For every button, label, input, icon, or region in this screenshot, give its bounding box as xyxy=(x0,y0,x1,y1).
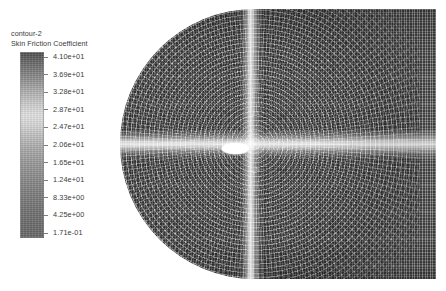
legend-subtitle: Skin Friction Coefficient xyxy=(11,39,88,49)
colorbar-tick-mark xyxy=(44,57,48,58)
colorbar-tick-label: 4.10e+01 xyxy=(53,52,84,62)
plot-area xyxy=(96,0,446,291)
fluent-contour-screenshot: contour-2 Skin Friction Coefficient 4.10… xyxy=(0,0,446,291)
colorbar-tick-mark xyxy=(44,109,48,110)
colorbar-tick-label: 2.47e+01 xyxy=(53,122,84,132)
colorbar-tick-label: 1.71e-01 xyxy=(53,228,83,238)
colorbar-tick-mark xyxy=(44,145,48,146)
colorbar-tick-mark xyxy=(44,92,48,93)
colorbar-tick-mark xyxy=(44,74,48,75)
centerline-band-horizontal-core xyxy=(110,137,436,151)
colorbar-gradient xyxy=(20,52,44,238)
colorbar-tick-label: 1.24e+01 xyxy=(53,175,84,185)
colorbar-tick-label: 1.65e+01 xyxy=(53,158,84,168)
mesh-domain xyxy=(110,9,436,279)
colorbar-tick-label: 4.25e+00 xyxy=(53,210,84,220)
elliptical-body xyxy=(222,143,249,154)
colorbar-tick-mark xyxy=(44,162,48,163)
colorbar-tick-mark xyxy=(44,180,48,181)
colorbar-tick-label: 8.33e+00 xyxy=(53,193,84,203)
colorbar-tick-label: 3.69e+01 xyxy=(53,70,84,80)
legend-title: contour-2 xyxy=(11,29,42,39)
colorbar-tick-mark xyxy=(44,215,48,216)
colorbar-tick-mark xyxy=(44,197,48,198)
colorbar-tick-mark xyxy=(44,233,48,234)
colorbar xyxy=(20,52,44,238)
colorbar-tick-label: 3.28e+01 xyxy=(53,87,84,97)
colorbar-tick-mark xyxy=(44,127,48,128)
colorbar-tick-label: 2.06e+01 xyxy=(53,140,84,150)
colorbar-tick-label: 2.87e+01 xyxy=(53,105,84,115)
station-band-vertical-core xyxy=(246,9,255,279)
